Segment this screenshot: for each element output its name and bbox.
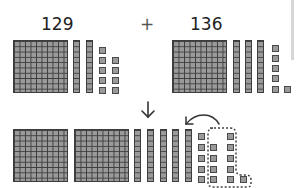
curved-arrow-icon (186, 115, 219, 124)
regroup-dashed-outline (208, 128, 251, 187)
down-arrow-icon (142, 102, 154, 117)
